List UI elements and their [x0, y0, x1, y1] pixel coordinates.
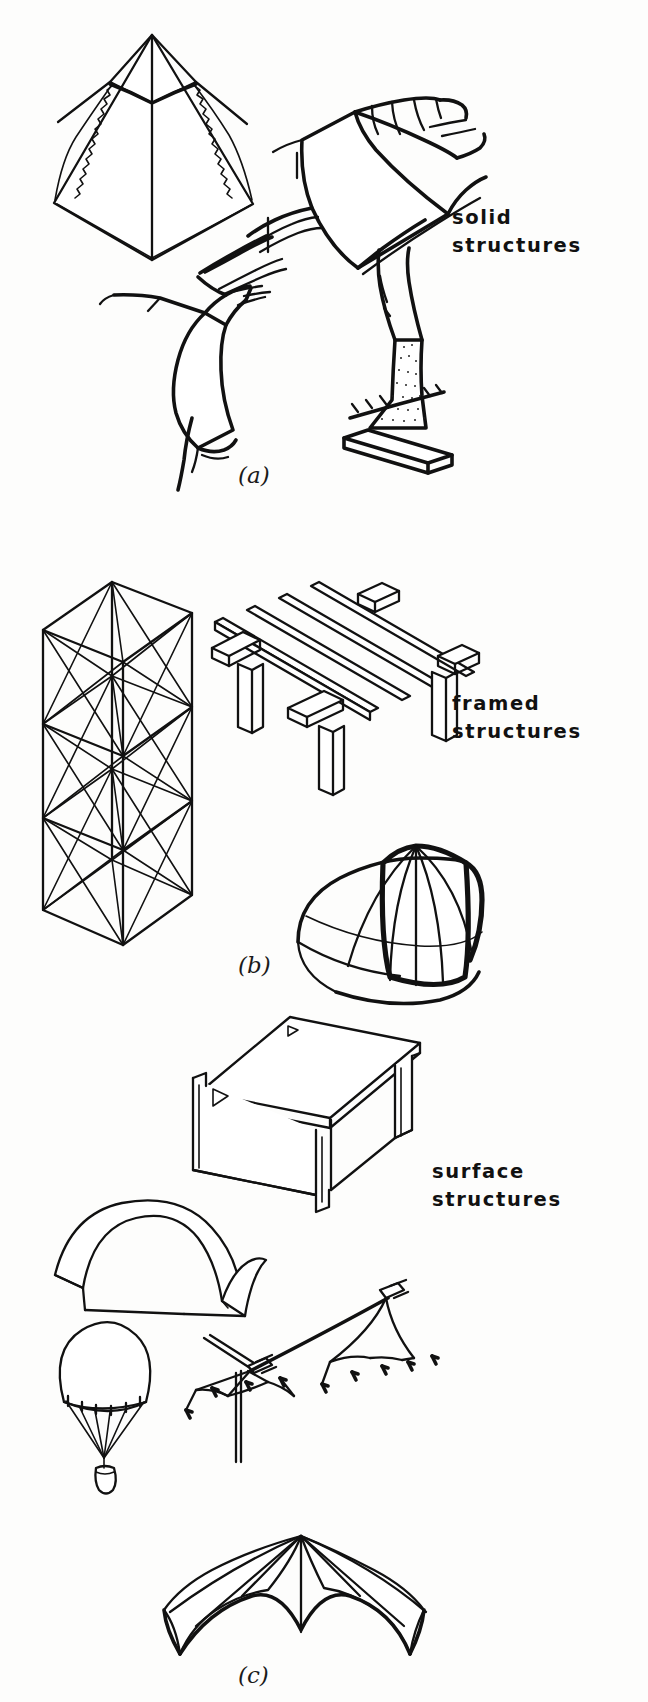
pyramid-icon — [54, 35, 253, 260]
barrel-vault-shell-icon — [55, 1200, 266, 1316]
panel-a-label-line-2: structures — [452, 232, 582, 260]
panel-solid-structures: solid structures (a) — [0, 0, 648, 480]
surface-structures-illustrations — [0, 990, 648, 1702]
parachute-icon — [60, 1322, 150, 1493]
panel-framed-structures: framed structures (b) — [0, 480, 648, 990]
folded-plate-slab-icon — [193, 1017, 420, 1212]
braced-tower-icon — [43, 582, 192, 945]
panel-c-label-line-2: structures — [432, 1186, 562, 1214]
panel-a-label: solid structures — [452, 204, 582, 261]
panel-c-label: surface structures — [432, 1158, 562, 1215]
ridge-tent-icon — [186, 1280, 438, 1462]
panel-surface-structures: surface structures (c) — [0, 990, 648, 1702]
panel-b-label-line-1: framed — [452, 690, 582, 718]
panel-c-caption: (c) — [238, 1662, 269, 1688]
rock-outcrop-icon — [100, 236, 286, 490]
panel-b-caption: (b) — [238, 952, 271, 978]
arch-dam-icon — [248, 98, 486, 274]
figure-page: solid structures (a) — [0, 0, 648, 1702]
panel-b-label: framed structures — [452, 690, 582, 747]
post-and-beam-deck-icon — [212, 582, 479, 795]
tensile-canopy-icon — [164, 1536, 426, 1654]
panel-b-label-line-2: structures — [452, 718, 582, 746]
panel-a-label-line-1: solid — [452, 204, 582, 232]
concrete-buttress-icon — [344, 248, 452, 473]
panel-c-label-line-1: surface — [432, 1158, 562, 1186]
ribbed-dome-icon — [298, 846, 482, 1004]
